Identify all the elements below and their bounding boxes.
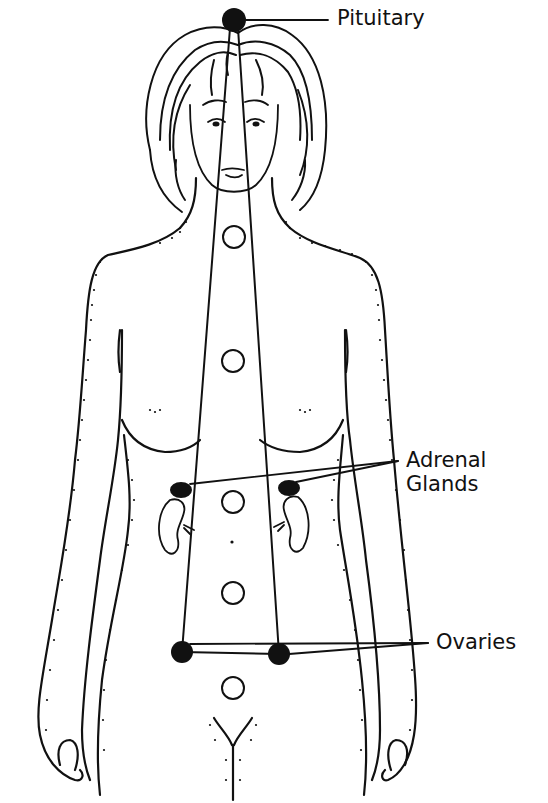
chakra-root: [222, 677, 244, 699]
adrenal-gland-left: [170, 482, 192, 498]
ovaries-label: Ovaries: [436, 630, 516, 654]
leader-lines: [190, 20, 428, 654]
ovary-left-marker: [171, 641, 193, 663]
hair-outline: [146, 25, 326, 212]
chakra-sacral: [222, 582, 244, 604]
adrenal-gland-right: [278, 480, 300, 496]
navel: [230, 540, 233, 543]
adrenal-label-line1: Adrenal: [406, 448, 486, 472]
chakra-solar-plexus: [222, 491, 244, 513]
body-diagram: [0, 0, 548, 803]
chakra-circles: [222, 226, 245, 699]
body-outline: [38, 178, 416, 800]
adrenal-label-line2: Glands: [406, 472, 486, 496]
adrenal-glands-label: Adrenal Glands: [406, 448, 486, 496]
ovary-right-marker: [268, 643, 290, 665]
face: [190, 100, 278, 191]
eyes: [213, 122, 260, 127]
pituitary-marker: [222, 8, 246, 32]
chakra-heart: [222, 350, 244, 372]
chakra-throat: [223, 226, 245, 248]
pituitary-label: Pituitary: [337, 6, 425, 30]
